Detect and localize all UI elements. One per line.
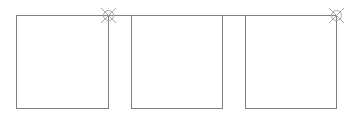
diagram-canvas xyxy=(0,0,353,118)
crossed-circle-marker-icon xyxy=(329,8,344,23)
box-1 xyxy=(17,16,109,109)
crossed-circle-marker-icon xyxy=(101,8,116,23)
box-3 xyxy=(246,16,337,109)
box-2 xyxy=(132,16,223,109)
